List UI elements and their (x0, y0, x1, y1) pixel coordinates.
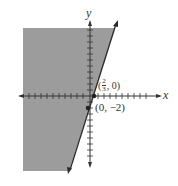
coordinate-plane (0, 0, 178, 186)
point-x-intercept (92, 94, 97, 99)
fraction-denominator: 3 (102, 86, 106, 93)
paren-open: ( (98, 80, 101, 91)
fraction: 2 3 (102, 78, 106, 93)
point-a-rest: , 0) (107, 80, 120, 91)
shaded-region (23, 28, 115, 171)
point-label-x-intercept: ( 2 3 , 0) (98, 78, 120, 93)
y-axis-label: y (86, 6, 91, 21)
point-y-intercept (86, 106, 91, 111)
x-axis-label: x (163, 88, 168, 103)
point-label-y-intercept: (0, −2) (95, 101, 125, 113)
